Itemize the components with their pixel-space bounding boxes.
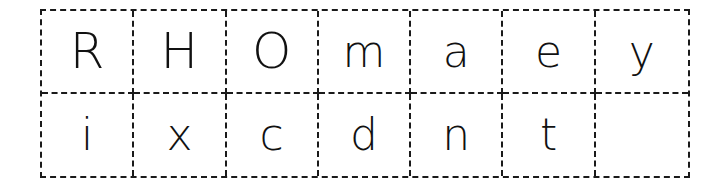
letter-cell: x — [134, 94, 226, 177]
letter-cell: O — [227, 11, 319, 94]
letter-cell: a — [411, 11, 503, 94]
letter-cell: y — [596, 11, 688, 94]
empty-cell — [596, 94, 688, 177]
letter-cell: d — [319, 94, 411, 177]
letter-cell: t — [503, 94, 595, 177]
letter-grid: R H O m a e y i x c d n t — [40, 9, 690, 178]
letter-cell: i — [42, 94, 134, 177]
letter-cell: e — [503, 11, 595, 94]
letter-cell: m — [319, 11, 411, 94]
letter-cell: n — [411, 94, 503, 177]
letter-cell: c — [227, 94, 319, 177]
letter-cell: H — [134, 11, 226, 94]
letter-cell: R — [42, 11, 134, 94]
